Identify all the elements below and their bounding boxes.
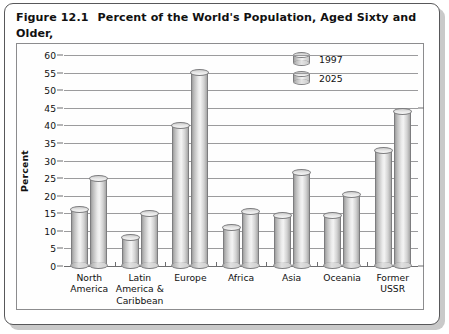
y-axis-tick-mark (57, 213, 63, 214)
bar-body (375, 150, 392, 266)
bar-base-ellipse (241, 262, 260, 269)
y-axis-tick-mark (57, 90, 63, 91)
bar-base-ellipse (342, 262, 361, 269)
y-axis-tick-mark (57, 72, 63, 73)
bar-base-ellipse (222, 262, 241, 269)
plot-area: 051015202530354045505560 (64, 55, 418, 266)
bar-body (343, 194, 360, 266)
y-axis-tick-label: 40 (30, 120, 56, 131)
bar-1997 (71, 210, 88, 266)
x-axis-category-label: LatinAmerica &Caribbean (115, 272, 166, 306)
figure-container: Figure 12.1Percent of the World's Popula… (0, 0, 449, 334)
y-axis-tick-label: 45 (30, 102, 56, 113)
bar-1997 (122, 238, 139, 266)
y-axis-tick-mark (57, 142, 63, 143)
bar-top-ellipse (323, 212, 342, 219)
x-axis-category-label: Asia (266, 272, 317, 283)
x-axis-group-tick (367, 262, 368, 266)
bar-top-ellipse (393, 108, 412, 115)
bar-group (165, 55, 216, 266)
y-axis-tick-label: 15 (30, 208, 56, 219)
x-axis-group-tick (216, 262, 217, 266)
bar-1997 (324, 215, 341, 266)
bar-base-ellipse (171, 262, 190, 269)
x-axis-group-tick (165, 262, 166, 266)
y-axis-tick-label: 0 (30, 261, 56, 272)
plot-frame: Percent 19972025 05101520253035404550556… (16, 43, 424, 310)
bar-2025 (394, 111, 411, 266)
bar-base-ellipse (273, 262, 292, 269)
y-axis-tick-mark (57, 125, 63, 126)
bar-1997 (274, 215, 291, 266)
y-axis-tick-label: 10 (30, 225, 56, 236)
bar-group (367, 55, 418, 266)
bar-1997 (223, 227, 240, 266)
x-axis-category-label: Africa (216, 272, 267, 283)
bar-top-ellipse (222, 224, 241, 231)
x-axis-group-tick (266, 262, 267, 266)
bar-body (141, 213, 158, 266)
bar-2025 (242, 212, 259, 267)
bar-group (115, 55, 166, 266)
bar-base-ellipse (121, 262, 140, 269)
x-axis-category-label: FormerUSSR (367, 272, 418, 295)
bar-top-ellipse (273, 212, 292, 219)
y-axis-tick-label: 30 (30, 155, 56, 166)
bar-body (172, 125, 189, 266)
y-axis-tick-mark (57, 55, 63, 56)
bar-body (394, 111, 411, 266)
bar-body (191, 73, 208, 266)
y-axis-tick-label: 55 (30, 67, 56, 78)
y-axis-tick-label: 35 (30, 137, 56, 148)
x-axis-group-tick (115, 262, 116, 266)
bar-top-ellipse (342, 191, 361, 198)
bar-top-ellipse (374, 147, 393, 154)
x-axis-category-label: NorthAmerica (64, 272, 115, 295)
bar-group (216, 55, 267, 266)
bar-base-ellipse (190, 262, 209, 269)
bar-group (64, 55, 115, 266)
figure-number: Figure 12.1 (16, 11, 89, 24)
bar-base-ellipse (323, 262, 342, 269)
y-axis-tick-mark-right (418, 266, 424, 267)
y-axis-tick-label: 5 (30, 243, 56, 254)
x-axis-category-labels: NorthAmericaLatinAmerica &CaribbeanEurop… (64, 272, 418, 312)
y-axis-tick-mark (57, 266, 63, 267)
y-axis-tick-label: 50 (30, 85, 56, 96)
bar-2025 (141, 213, 158, 266)
x-axis-group-tick (317, 262, 318, 266)
y-axis-tick-label: 25 (30, 173, 56, 184)
bar-1997 (375, 150, 392, 266)
y-axis-tick-mark (57, 195, 63, 196)
bar-body (274, 215, 291, 266)
bar-body (223, 227, 240, 266)
bar-2025 (343, 194, 360, 266)
y-axis-tick-label: 20 (30, 190, 56, 201)
bar-2025 (293, 173, 310, 266)
bar-base-ellipse (89, 262, 108, 269)
bar-base-ellipse (374, 262, 393, 269)
bar-top-ellipse (140, 210, 159, 217)
bar-base-ellipse (292, 262, 311, 269)
y-axis-tick-mark (57, 178, 63, 179)
bar-group (317, 55, 368, 266)
bar-body (324, 215, 341, 266)
bar-2025 (90, 178, 107, 266)
bar-base-ellipse (393, 262, 412, 269)
y-axis-tick-mark-right (418, 107, 424, 108)
x-axis-category-label: Oceania (317, 272, 368, 283)
x-axis-category-label: Europe (165, 272, 216, 283)
bar-body (71, 210, 88, 266)
bar-top-ellipse (89, 175, 108, 182)
bar-base-ellipse (140, 262, 159, 269)
y-axis-label: Percent (19, 178, 30, 192)
y-axis-tick-mark (57, 160, 63, 161)
bar-body (90, 178, 107, 266)
y-axis-tick-mark (57, 107, 63, 108)
y-axis-tick-mark (57, 230, 63, 231)
bar-2025 (191, 73, 208, 266)
bar-body (242, 212, 259, 267)
bar-base-ellipse (70, 262, 89, 269)
bar-group (266, 55, 317, 266)
y-axis-tick-mark (57, 248, 63, 249)
